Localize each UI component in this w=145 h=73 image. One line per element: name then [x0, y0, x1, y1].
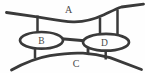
label-b: B: [38, 36, 44, 46]
label-d: D: [101, 38, 108, 48]
diagram-figure: A B C D: [0, 0, 145, 73]
diagram-canvas: A B C D: [0, 0, 145, 73]
connector-b-d: [62, 39, 85, 41]
label-c: C: [73, 58, 80, 69]
top-curve-a: [7, 4, 144, 22]
label-a: A: [65, 4, 73, 15]
